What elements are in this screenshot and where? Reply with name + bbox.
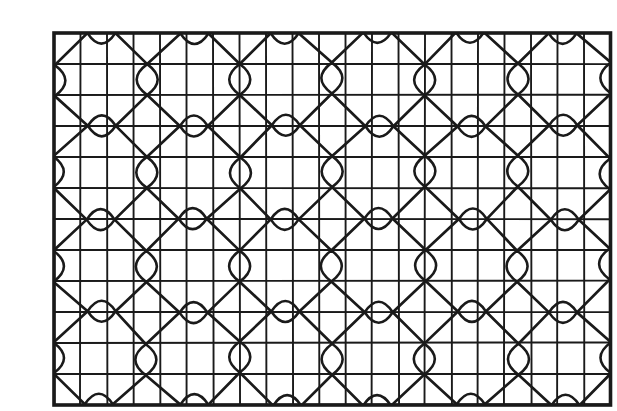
- pattern-canvas: [40, 16, 617, 411]
- pattern-plate: geometric-lattice-pattern-plate: [40, 16, 617, 411]
